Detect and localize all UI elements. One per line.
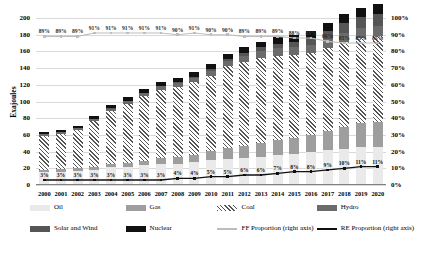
stacked-bar[interactable] [189,72,199,185]
bar-segment-coal[interactable] [123,104,133,163]
bar-segment-coal[interactable] [39,136,49,170]
bar-segment-gas[interactable] [189,155,199,163]
bar-segment-oil[interactable] [256,157,266,185]
bar-segment-oil[interactable] [239,158,249,185]
bar-segment-solar-and-wind[interactable] [323,31,333,39]
stacked-bar[interactable] [206,64,216,185]
legend-item[interactable]: Hydro [317,203,416,212]
bar-segment-coal[interactable] [156,90,166,158]
stacked-bar[interactable] [39,132,49,185]
bar-segment-solar-and-wind[interactable] [356,17,366,28]
bar-segment-coal[interactable] [106,111,116,164]
stacked-bar[interactable] [73,126,83,185]
bar-slot[interactable] [369,18,386,185]
bar-segment-coal[interactable] [139,96,149,160]
bar-slot[interactable] [186,18,203,185]
bar-segment-coal[interactable] [289,55,299,138]
bar-segment-hydro[interactable] [273,48,283,56]
bar-slot[interactable] [69,18,86,185]
bar-segment-coal[interactable] [189,82,199,155]
bar-segment-oil[interactable] [173,164,183,185]
bar-segment-gas[interactable] [339,127,349,149]
bar-segment-hydro[interactable] [306,45,316,53]
bar-slot[interactable] [103,18,120,185]
bar-segment-gas[interactable] [256,143,266,157]
bar-segment-hydro[interactable] [256,51,266,58]
stacked-bar[interactable] [56,130,66,185]
bar-segment-oil[interactable] [123,167,133,185]
stacked-bar[interactable] [123,97,133,185]
bar-slot[interactable] [253,18,270,185]
bar-segment-coal[interactable] [273,56,283,140]
bar-segment-oil[interactable] [289,154,299,185]
bar-segment-gas[interactable] [323,131,333,150]
bar-segment-oil[interactable] [206,160,216,185]
bar-segment-oil[interactable] [156,164,166,185]
bar-segment-hydro[interactable] [356,28,366,37]
bar-slot[interactable] [153,18,170,185]
bar-segment-coal[interactable] [173,87,183,157]
bar-segment-coal[interactable] [323,48,333,131]
stacked-bar[interactable] [173,77,183,185]
bar-segment-nuclear[interactable] [306,31,316,38]
legend-item[interactable]: RE Proportion (right axis) [317,224,416,233]
bar-segment-gas[interactable] [223,148,233,159]
bar-segment-oil[interactable] [273,155,283,185]
bar-slot[interactable] [53,18,70,185]
bar-slot[interactable] [319,18,336,185]
legend-item[interactable]: FF Proportion (right axis) [217,224,316,233]
bar-segment-hydro[interactable] [339,33,349,42]
bar-segment-nuclear[interactable] [339,14,349,23]
bar-slot[interactable] [353,18,370,185]
bar-slot[interactable] [136,18,153,185]
bar-segment-gas[interactable] [289,138,299,154]
bar-segment-nuclear[interactable] [323,23,333,31]
stacked-bar[interactable] [106,105,116,185]
bar-slot[interactable] [86,18,103,185]
stacked-bar[interactable] [156,81,166,185]
legend-item[interactable]: Oil [30,203,126,212]
bar-segment-oil[interactable] [373,147,383,185]
bar-slot[interactable] [236,18,253,185]
stacked-bar[interactable] [373,4,383,185]
bar-segment-hydro[interactable] [323,39,333,48]
bar-segment-gas[interactable] [373,122,383,147]
bar-segment-coal[interactable] [223,66,233,148]
bar-segment-coal[interactable] [373,36,383,122]
bar-segment-gas[interactable] [306,135,316,152]
stacked-bar[interactable] [273,37,283,185]
bar-segment-coal[interactable] [56,134,66,169]
stacked-bar[interactable] [89,116,99,185]
legend-item[interactable]: Gas [126,203,218,212]
bar-segment-gas[interactable] [206,151,216,160]
stacked-bar[interactable] [339,14,349,185]
bar-segment-oil[interactable] [106,167,116,185]
stacked-bar[interactable] [356,8,366,185]
bar-slot[interactable] [303,18,320,185]
bar-slot[interactable] [336,18,353,185]
bar-slot[interactable] [219,18,236,185]
bar-segment-coal[interactable] [239,62,249,146]
bar-segment-nuclear[interactable] [373,4,383,14]
legend-item[interactable]: Solar and Wind [30,224,126,233]
bar-segment-hydro[interactable] [289,47,299,55]
bar-segment-coal[interactable] [256,58,266,143]
bar-segment-nuclear[interactable] [289,35,299,42]
bar-segment-coal[interactable] [306,53,316,135]
stacked-bar[interactable] [256,41,266,185]
bar-slot[interactable] [169,18,186,185]
bar-segment-oil[interactable] [223,159,233,185]
bar-slot[interactable] [286,18,303,185]
bar-segment-coal[interactable] [206,76,216,151]
bar-segment-solar-and-wind[interactable] [339,23,349,33]
bar-segment-oil[interactable] [139,165,149,185]
legend-item[interactable]: Coal [217,203,316,212]
bar-slot[interactable] [269,18,286,185]
bar-segment-gas[interactable] [273,140,283,155]
bar-segment-oil[interactable] [73,171,83,185]
bar-segment-nuclear[interactable] [356,8,366,18]
bar-segment-oil[interactable] [356,147,366,185]
bar-segment-coal[interactable] [356,38,366,124]
bar-slot[interactable] [203,18,220,185]
bar-segment-oil[interactable] [306,152,316,185]
